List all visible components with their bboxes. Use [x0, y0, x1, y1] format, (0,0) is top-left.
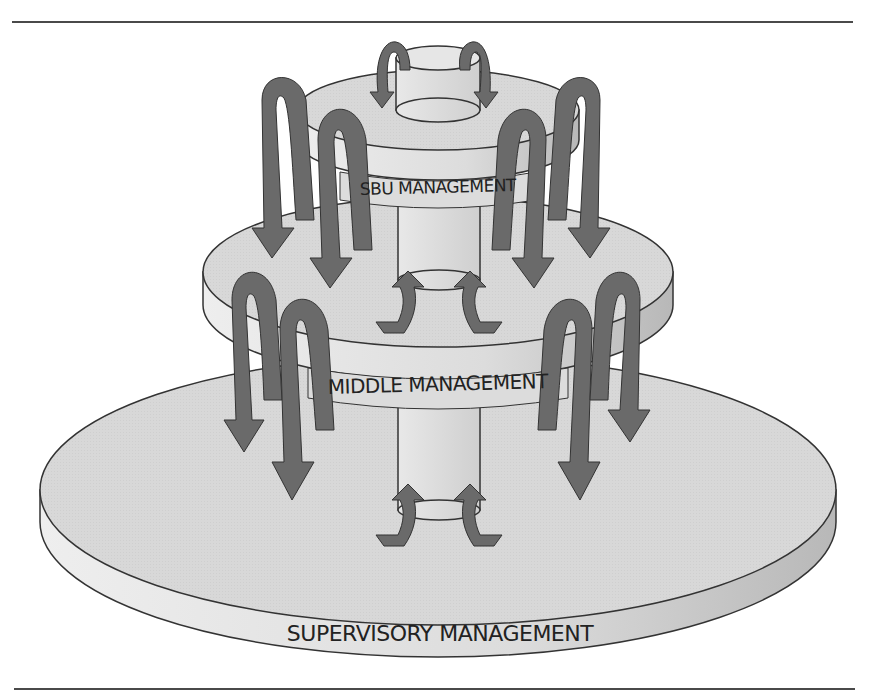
label-sbu-management: SBU MANAGEMENT [360, 175, 518, 199]
label-supervisory-management: SUPERVISORY MANAGEMENT [287, 621, 594, 646]
planning-tier-diagram: SBU MANAGEMENT MIDDLE MANAGEMENT SUPERVI… [0, 0, 875, 697]
